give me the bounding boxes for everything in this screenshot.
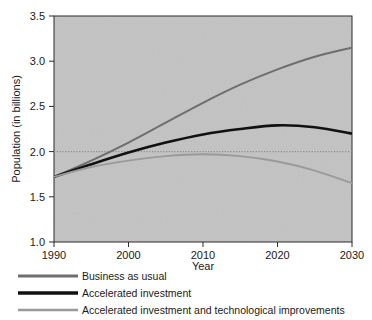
x-tick-label-0: 1990 bbox=[42, 249, 66, 261]
population-projection-chart: 1.01.52.02.53.03.5 19902000201020202030 … bbox=[0, 0, 372, 320]
plot-area bbox=[54, 16, 352, 242]
legend-label-1: Accelerated investment bbox=[82, 287, 191, 299]
y-tick-label-1: 1.5 bbox=[30, 191, 45, 203]
y-tick-label-3: 2.5 bbox=[30, 100, 45, 112]
legend-label-0: Business as usual bbox=[82, 270, 167, 282]
x-tick-label-3: 2020 bbox=[265, 249, 289, 261]
y-tick-label-4: 3.0 bbox=[30, 55, 45, 67]
y-axis-label: Population (in billions) bbox=[10, 75, 22, 183]
x-tick-label-1: 2000 bbox=[116, 249, 140, 261]
y-tick-label-2: 2.0 bbox=[30, 146, 45, 158]
y-tick-label-0: 1.0 bbox=[30, 236, 45, 248]
plot-background-texture bbox=[54, 16, 352, 242]
y-tick-label-5: 3.5 bbox=[30, 10, 45, 22]
x-axis-label: Year bbox=[192, 260, 215, 272]
x-tick-label-4: 2030 bbox=[340, 249, 364, 261]
legend-label-2: Accelerated investment and technological… bbox=[82, 304, 345, 316]
